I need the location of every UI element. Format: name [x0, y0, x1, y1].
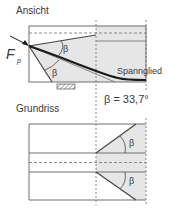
force-arrow-head [22, 40, 29, 46]
support-bearing [57, 84, 75, 89]
beta-value: β = 33,7° [104, 93, 149, 105]
anchorage-diagram: Ansicht β β F p Spannglied [0, 0, 172, 210]
tendon-label: Spannglied [117, 66, 162, 76]
plan-beta-top: β [129, 138, 134, 148]
plan-title: Grundriss [16, 103, 59, 114]
elevation-title: Ansicht [16, 5, 49, 16]
plan-view: β β [29, 108, 146, 205]
force-subscript: p [16, 57, 21, 65]
beta-label-top: β [63, 44, 68, 54]
plan-beta-bottom: β [129, 176, 134, 186]
beta-label-bottom: β [52, 68, 57, 78]
force-label: F [6, 46, 16, 62]
